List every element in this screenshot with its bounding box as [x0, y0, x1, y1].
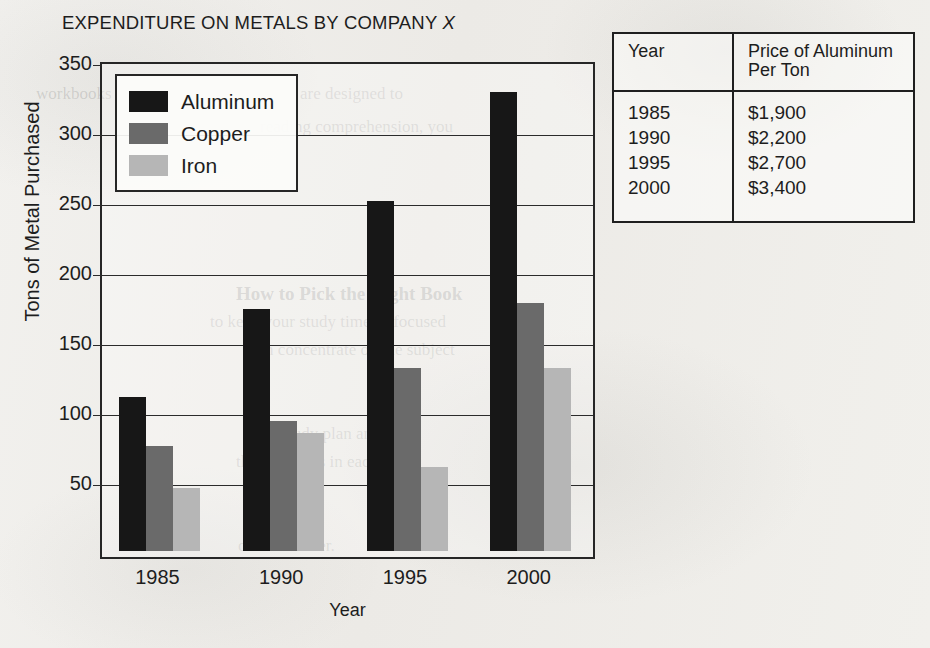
table-header-row: Year Price of Aluminum Per Ton — [614, 34, 913, 91]
y-tick-label-150: 150 — [59, 332, 92, 355]
legend-swatch-iron-icon — [129, 155, 168, 176]
x-axis-title: Year — [100, 600, 595, 621]
legend-swatch-copper-icon — [129, 123, 168, 144]
legend-swatch-aluminum-icon — [129, 91, 168, 112]
x-tick-label-1990: 1990 — [259, 566, 304, 589]
bar-copper-2000 — [517, 303, 544, 551]
chart-title: EXPENDITURE ON METALS BY COMPANY X — [62, 12, 455, 34]
table-row: 2000$3,400 — [614, 175, 913, 221]
y-tick-label-350: 350 — [59, 52, 92, 75]
y-tick-label-300: 300 — [59, 122, 92, 145]
table-row: 1990$2,200 — [614, 125, 913, 150]
bar-iron-1995 — [421, 467, 448, 551]
chart-legend: AluminumCopperIron — [115, 74, 298, 192]
table-header-price-line2: Per Ton — [748, 61, 903, 80]
y-axis-title: Tons of Metal Purchased — [21, 52, 44, 372]
y-tick-label-100: 100 — [59, 402, 92, 425]
chart-title-main: EXPENDITURE ON METALS BY COMPANY — [62, 12, 442, 33]
legend-item-copper: Copper — [129, 117, 274, 149]
x-tick-label-1995: 1995 — [383, 566, 428, 589]
bar-aluminum-1990 — [243, 309, 270, 551]
bar-copper-1995 — [394, 368, 421, 551]
legend-label-aluminum: Aluminum — [181, 91, 274, 112]
y-tick-150 — [93, 345, 102, 346]
aluminum-price-table: Year Price of Aluminum Per Ton 1985$1,90… — [612, 32, 915, 223]
x-axis-tick-labels: 1985199019952000 — [100, 566, 595, 596]
table-header-price: Price of Aluminum Per Ton — [733, 34, 913, 91]
y-tick-label-200: 200 — [59, 262, 92, 285]
y-tick-100 — [93, 415, 102, 416]
table-cell-price: $3,400 — [733, 175, 913, 221]
bar-copper-1985 — [146, 446, 173, 551]
y-tick-350 — [93, 65, 102, 66]
y-tick-50 — [93, 485, 102, 486]
legend-item-aluminum: Aluminum — [129, 85, 274, 117]
y-tick-250 — [93, 205, 102, 206]
bar-iron-1985 — [173, 488, 200, 551]
table-cell-year: 2000 — [614, 175, 733, 221]
table-header-price-line1: Price of Aluminum — [748, 42, 903, 61]
bar-aluminum-1985 — [119, 397, 146, 551]
table-cell-price: $2,700 — [733, 150, 913, 175]
table-body: 1985$1,9001990$2,2001995$2,7002000$3,400 — [614, 91, 913, 222]
bar-iron-2000 — [544, 368, 571, 551]
legend-item-iron: Iron — [129, 149, 274, 181]
table-row: 1985$1,900 — [614, 91, 913, 125]
bar-aluminum-2000 — [490, 92, 517, 551]
gridline-250 — [102, 205, 593, 206]
bar-copper-1990 — [270, 421, 297, 551]
table-cell-year: 1990 — [614, 125, 733, 150]
legend-label-iron: Iron — [181, 155, 217, 176]
table-cell-price: $2,200 — [733, 125, 913, 150]
bar-aluminum-1995 — [367, 201, 394, 551]
y-tick-300 — [93, 135, 102, 136]
y-tick-200 — [93, 275, 102, 276]
x-tick-label-1985: 1985 — [135, 566, 180, 589]
y-tick-label-50: 50 — [70, 472, 92, 495]
bar-iron-1990 — [297, 433, 324, 551]
table-cell-year: 1995 — [614, 150, 733, 175]
y-tick-label-250: 250 — [59, 192, 92, 215]
table-row: 1995$2,700 — [614, 150, 913, 175]
table-cell-year: 1985 — [614, 91, 733, 125]
x-tick-label-2000: 2000 — [507, 566, 552, 589]
gridline-200 — [102, 275, 593, 276]
table-header-year: Year — [614, 34, 733, 91]
legend-label-copper: Copper — [181, 123, 250, 144]
table-cell-price: $1,900 — [733, 91, 913, 125]
chart-title-company-symbol: X — [442, 12, 455, 33]
